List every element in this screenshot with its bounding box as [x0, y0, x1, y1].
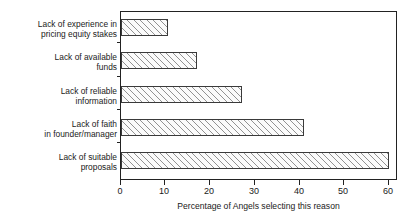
x-axis-tick-label: 60 — [373, 186, 403, 197]
y-axis-tick — [117, 42, 121, 43]
x-axis-tick — [209, 180, 210, 185]
x-axis-tick — [299, 180, 300, 185]
x-axis-tick-label: 10 — [149, 186, 179, 197]
x-axis-tick — [120, 180, 121, 185]
x-axis-tick-label: 0 — [105, 186, 135, 197]
x-axis-tick — [164, 180, 165, 185]
x-axis-tick-label: 20 — [194, 186, 224, 197]
y-axis-tick — [117, 109, 121, 110]
category-label: Lack of experience in pricing equity sta… — [0, 19, 117, 40]
x-axis-tick-label: 50 — [328, 186, 358, 197]
category-label: Lack of faith in founder/manager — [0, 119, 117, 140]
x-axis-title: Percentage of Angels selecting this reas… — [120, 201, 397, 212]
bar-lack-of-faith-in-founder-manager — [121, 119, 304, 136]
bar-lack-of-suitable-proposals — [121, 152, 389, 169]
x-axis-tick — [388, 180, 389, 185]
bar-chart: Lack of experience in pricing equity sta… — [0, 0, 414, 221]
x-axis-tick-label: 40 — [284, 186, 314, 197]
bars-layer — [121, 12, 397, 179]
bar-lack-of-experience-in-pricing-equity-stakes — [121, 19, 168, 36]
y-axis-tick — [117, 142, 121, 143]
category-label: Lack of suitable proposals — [0, 152, 117, 173]
category-label: Lack of available funds — [0, 52, 117, 73]
y-axis-tick — [117, 76, 121, 77]
y-axis-category-labels: Lack of experience in pricing equity sta… — [0, 11, 117, 180]
x-axis-tick — [343, 180, 344, 185]
x-axis-tick-label: 30 — [239, 186, 269, 197]
bar-lack-of-reliable-information — [121, 86, 242, 103]
x-axis-tick — [254, 180, 255, 185]
category-label: Lack of reliable information — [0, 86, 117, 107]
bar-lack-of-available-funds — [121, 52, 197, 69]
